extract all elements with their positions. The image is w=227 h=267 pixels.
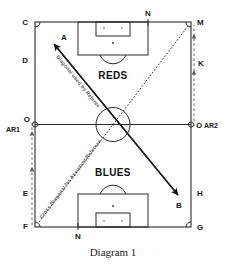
- figure-caption: Diagram 1: [90, 246, 137, 258]
- annotation-assistant-cross-diagonal: Cross Diagonal for Assistant Referees: [38, 138, 102, 220]
- label-team-blues: BLUES: [95, 167, 131, 178]
- annotation-referee-diagonal: Diagonal used by Referee: [55, 54, 101, 109]
- label-team-reds: REDS: [98, 70, 127, 81]
- label-assistant-referee-1: AR1: [6, 126, 20, 133]
- bottom-penalty-area: [78, 185, 148, 227]
- label-position-e: E: [23, 189, 29, 198]
- assistant-referee-2-patrol-path: [192, 25, 196, 126]
- label-arrow-point-a: A: [61, 33, 67, 42]
- label-halfway-left-o: O: [24, 115, 30, 124]
- assistant-referee-1-patrol-path: [30, 122, 34, 225]
- label-position-k: K: [198, 59, 204, 68]
- soccer-diagonal-system-diagram: C D N M K O AR1 O AR2 E F N H G A B REDS…: [0, 0, 227, 267]
- label-corner-c: C: [22, 18, 28, 27]
- label-position-h: H: [197, 189, 203, 198]
- label-assistant-referee-2: AR2: [204, 122, 218, 129]
- label-position-d: D: [22, 56, 28, 65]
- label-corner-m: M: [197, 18, 204, 27]
- diagram-container: C D N M K O AR1 O AR2 E F N H G A B REDS…: [0, 0, 227, 267]
- top-penalty-area: [78, 22, 148, 64]
- label-bottom-goal-line-n: N: [75, 232, 81, 241]
- label-arrow-point-b: B: [176, 201, 182, 210]
- label-top-goal-line-n: N: [145, 9, 151, 18]
- label-halfway-right-o: O: [196, 121, 202, 130]
- label-corner-f: F: [23, 222, 28, 231]
- label-corner-g: G: [197, 223, 203, 232]
